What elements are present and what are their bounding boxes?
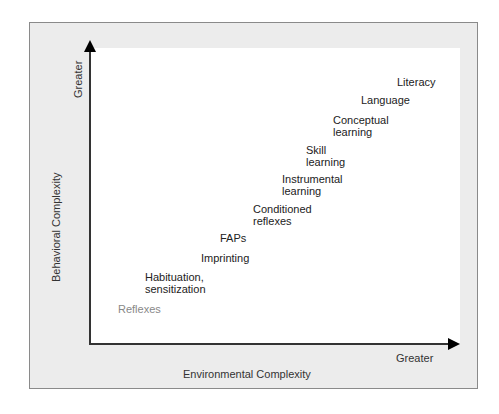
behavior-label-line2: learning: [282, 185, 343, 197]
behavior-label-line1: Literacy: [397, 76, 436, 88]
behavior-label-line1: Reflexes: [118, 303, 161, 315]
arrow-up-icon: [84, 40, 96, 52]
behavior-label-line2: learning: [306, 156, 345, 168]
behavior-label: Language: [361, 94, 410, 106]
behavior-label-line2: reflexes: [253, 215, 312, 227]
behavior-label: Instrumentallearning: [282, 173, 343, 197]
behavior-label-line1: Language: [361, 94, 410, 106]
x-axis-end-label: Greater: [396, 352, 433, 364]
x-axis-title: Environmental Complexity: [183, 368, 311, 380]
behavior-label-line1: Conceptual: [333, 114, 389, 126]
behavior-label-line1: Skill: [306, 144, 345, 156]
y-axis-title: Behavioral Complexity: [50, 173, 62, 282]
behavior-label-line1: FAPs: [220, 232, 246, 244]
plot-area: [90, 48, 460, 343]
x-axis-line: [89, 343, 451, 345]
behavior-label: Skilllearning: [306, 144, 345, 168]
behavior-label: Reflexes: [118, 303, 161, 315]
behavior-label: Imprinting: [201, 252, 249, 264]
behavior-label-line1: Imprinting: [201, 252, 249, 264]
behavior-label-line1: Conditioned: [253, 203, 312, 215]
behavior-label: Literacy: [397, 76, 436, 88]
behavior-label: Habituation,sensitization: [145, 271, 206, 295]
behavior-label-line1: Instrumental: [282, 173, 343, 185]
behavior-label: FAPs: [220, 232, 246, 244]
arrow-right-icon: [448, 338, 460, 350]
behavior-label: Conceptuallearning: [333, 114, 389, 138]
behavior-label-line2: sensitization: [145, 283, 206, 295]
behavior-label-line2: learning: [333, 126, 389, 138]
behavior-label-line1: Habituation,: [145, 271, 206, 283]
y-axis-end-label: Greater: [72, 61, 84, 98]
y-axis-line: [89, 50, 91, 344]
behavior-label: Conditionedreflexes: [253, 203, 312, 227]
